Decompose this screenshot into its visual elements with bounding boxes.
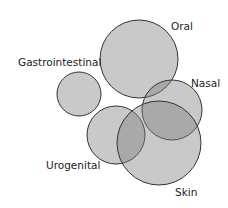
label-skin: Skin [175, 186, 197, 198]
label-gastrointestinal: Gastrointestinal [18, 56, 101, 68]
label-oral: Oral [171, 20, 193, 32]
label-nasal: Nasal [191, 77, 220, 89]
circle-skin [117, 101, 201, 185]
circle-gastrointestinal [57, 72, 101, 116]
label-urogenital: Urogenital [46, 159, 100, 171]
body-site-venn-diagram: Oral Gastrointestinal Nasal Urogenital S… [0, 0, 228, 208]
